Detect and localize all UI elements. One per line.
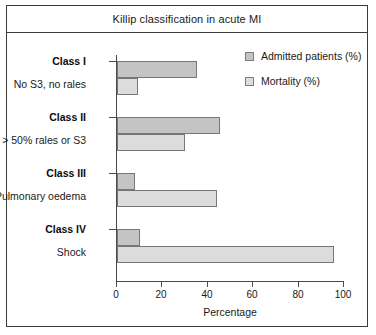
y-tick-class-4: [109, 229, 116, 230]
bar-admitted-class-4: [117, 229, 140, 246]
legend-swatch-mortality-icon: [245, 77, 254, 86]
x-axis-line: [116, 281, 344, 282]
bar-mortality-class-3: [117, 190, 217, 207]
x-tick-label-60: 60: [246, 289, 257, 300]
legend-label-admitted: Admitted patients (%): [261, 50, 361, 62]
bar-mortality-class-1: [117, 78, 138, 95]
x-tick-label-80: 80: [292, 289, 303, 300]
x-tick-label-40: 40: [201, 289, 212, 300]
bar-mortality-class-2: [117, 134, 185, 151]
group-label-class-3: Class III: [46, 167, 86, 179]
y-tick-class-2: [109, 117, 116, 118]
x-tick-0: [116, 282, 117, 287]
x-tick-100: [343, 282, 344, 287]
chart-title: Killip classification in acute MI: [113, 13, 262, 25]
legend-item-admitted: Admitted patients (%): [245, 50, 376, 62]
group-desc-class-3: Pulmonary oedema: [0, 190, 86, 202]
x-tick-80: [298, 282, 299, 287]
legend-swatch-admitted-icon: [245, 52, 254, 61]
x-tick-label-0: 0: [113, 289, 119, 300]
group-label-class-1: Class I: [52, 55, 86, 67]
plot-area: Admitted patients (%) Mortality (%) 0 20…: [7, 33, 367, 326]
group-label-class-2: Class II: [49, 111, 86, 123]
x-tick-40: [207, 282, 208, 287]
title-band: Killip classification in acute MI: [7, 6, 367, 33]
bar-admitted-class-2: [117, 117, 220, 134]
x-tick-60: [252, 282, 253, 287]
bar-admitted-class-1: [117, 61, 197, 78]
x-axis-title: Percentage: [116, 306, 344, 318]
group-label-class-4: Class IV: [45, 223, 86, 235]
x-tick-20: [161, 282, 162, 287]
group-desc-class-1: No S3, no rales: [14, 78, 86, 90]
x-tick-label-20: 20: [155, 289, 166, 300]
group-desc-class-4: Shock: [57, 246, 86, 258]
legend-label-mortality: Mortality (%): [261, 75, 320, 87]
group-desc-class-2: > 50% rales or S3: [2, 134, 86, 146]
x-tick-label-100: 100: [335, 289, 352, 300]
figure-frame: Killip classification in acute MI Admitt…: [6, 5, 368, 327]
bar-mortality-class-4: [117, 246, 334, 263]
legend-item-mortality: Mortality (%): [245, 75, 376, 87]
chart-legend: Admitted patients (%) Mortality (%): [245, 50, 376, 100]
y-tick-class-1: [109, 61, 116, 62]
y-tick-class-3: [109, 173, 116, 174]
bar-admitted-class-3: [117, 173, 135, 190]
